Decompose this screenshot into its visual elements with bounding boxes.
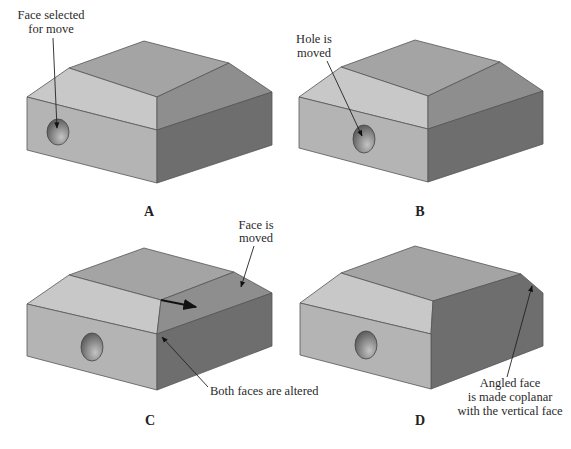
callout-face-moved: Face is moved (238, 218, 273, 287)
svg-text:for move: for move (28, 22, 74, 36)
panel-caption: A (144, 204, 155, 219)
block-c (27, 248, 272, 390)
block-b (299, 40, 543, 182)
svg-text:with the vertical face: with the vertical face (457, 404, 563, 418)
block-a (27, 41, 272, 183)
hole (355, 331, 377, 359)
panel-d: Angled face is made coplanar with the ve… (300, 246, 563, 428)
svg-text:Face selected: Face selected (18, 8, 86, 22)
panel-caption: C (145, 413, 155, 428)
svg-text:Angled face: Angled face (480, 376, 541, 390)
hole (81, 333, 103, 361)
svg-text:Hole is: Hole is (296, 32, 332, 46)
svg-text:Both faces are altered: Both faces are altered (210, 384, 319, 398)
figure-canvas: Face selected for move A Hole is moved B (0, 0, 571, 449)
svg-text:is made coplanar: is made coplanar (468, 390, 554, 404)
panel-c: Face is moved Both faces are altered C (27, 218, 319, 428)
panel-caption: D (415, 413, 425, 428)
hole (47, 119, 69, 145)
svg-text:Face is: Face is (238, 218, 273, 232)
panel-caption: B (415, 204, 424, 219)
panel-b: Hole is moved B (296, 32, 543, 219)
block-d (300, 246, 543, 389)
hole (353, 125, 375, 153)
svg-text:moved: moved (297, 46, 332, 60)
svg-text:moved: moved (239, 231, 274, 245)
panel-a: Face selected for move A (18, 8, 272, 219)
